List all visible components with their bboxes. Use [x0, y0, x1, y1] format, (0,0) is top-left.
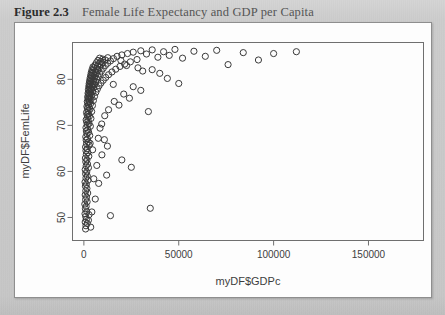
y-axis-tick-labels: 50607080	[56, 73, 67, 223]
data-point	[214, 47, 220, 53]
data-point	[160, 49, 166, 55]
y-tick-label: 70	[56, 119, 67, 131]
data-point	[293, 49, 299, 55]
figure-number: Figure 2.3	[14, 5, 69, 20]
data-point	[145, 108, 151, 114]
data-point	[96, 180, 102, 186]
data-point	[95, 135, 101, 141]
data-point	[191, 48, 197, 54]
x-tick-label: 0	[81, 249, 87, 260]
data-point	[130, 84, 136, 90]
data-point	[126, 95, 132, 101]
data-point	[104, 172, 110, 178]
data-points	[82, 46, 300, 232]
scatter-plot: 050000100000150000 50607080 myDF$GDPc my…	[15, 23, 431, 297]
data-point	[107, 213, 113, 219]
data-point	[116, 102, 122, 108]
data-point	[128, 164, 134, 170]
x-tick-label: 50000	[165, 249, 193, 260]
data-point	[123, 62, 129, 68]
y-tick-label: 50	[56, 211, 67, 223]
data-point	[155, 54, 161, 60]
y-tick-label: 60	[56, 165, 67, 177]
data-point	[124, 50, 130, 56]
plot-frame	[73, 43, 424, 241]
data-point	[157, 70, 163, 76]
data-point	[94, 162, 100, 168]
data-point	[164, 75, 170, 81]
data-point	[149, 47, 155, 53]
x-axis-ticks	[84, 241, 369, 246]
data-point	[121, 91, 127, 97]
data-point	[138, 87, 144, 93]
data-point	[255, 57, 261, 63]
figure-title: Female Life Expectancy and GDP per Capit…	[82, 5, 314, 20]
data-point	[138, 48, 144, 54]
data-point	[91, 176, 97, 182]
data-point	[119, 157, 125, 163]
figure-card: 050000100000150000 50607080 myDF$GDPc my…	[14, 22, 432, 298]
data-point	[102, 113, 108, 119]
data-point	[149, 67, 155, 73]
x-tick-label: 100000	[257, 249, 291, 260]
data-point	[92, 196, 98, 202]
data-point	[172, 46, 178, 52]
data-point	[240, 50, 246, 56]
y-axis-title: myDF$FemLife	[19, 103, 31, 178]
data-point	[101, 137, 107, 143]
data-point	[202, 53, 208, 59]
data-point	[130, 49, 136, 55]
data-point	[147, 205, 153, 211]
x-axis-title: myDF$GDPc	[216, 275, 281, 287]
y-axis-ticks	[68, 79, 73, 217]
x-tick-label: 150000	[352, 249, 386, 260]
data-point	[110, 81, 116, 87]
data-point	[225, 62, 231, 68]
data-point	[127, 59, 133, 65]
data-point	[140, 68, 146, 74]
data-point	[166, 52, 172, 58]
data-point	[176, 80, 182, 86]
data-point	[143, 51, 149, 57]
data-point	[104, 143, 110, 149]
data-point	[271, 50, 277, 56]
data-point	[105, 107, 111, 113]
x-axis-tick-labels: 050000100000150000	[81, 249, 385, 260]
data-point	[179, 55, 185, 61]
figure-caption: Figure 2.3 Female Life Expectancy and GD…	[14, 3, 432, 21]
y-tick-label: 80	[56, 73, 67, 85]
data-point	[99, 152, 105, 158]
data-point	[134, 56, 140, 62]
